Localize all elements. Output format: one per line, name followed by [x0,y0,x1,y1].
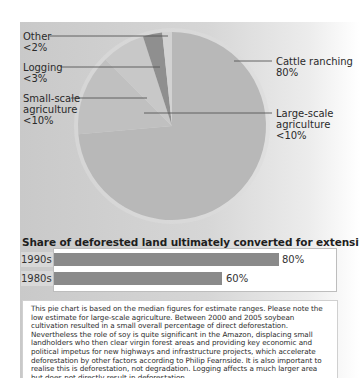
pie-label-cattle-value: 80% [276,67,353,78]
pie-label-small-scale-name1: Small-scale [23,93,80,104]
pie-label-logging-name: Logging [23,62,63,73]
bar-1980s [54,272,222,285]
pie-label-small-scale: Small-scale agriculture <10% [23,93,80,126]
pie-label-other-value: <2% [23,42,51,53]
pie-label-small-scale-value: <10% [23,115,80,126]
bar-value-1980s: 60% [226,272,248,285]
bar-label-1980s: 1980s [21,271,53,286]
pie-label-other-name: Other [23,31,51,42]
explanatory-note: This pie chart is based on the median fi… [22,300,338,378]
bar-1990s [54,253,279,266]
pie-label-large-scale: Large-scale agriculture <10% [276,108,334,141]
bar-chart-title: Share of deforested land ultimately conv… [22,236,359,248]
pie-label-cattle-name: Cattle ranching [276,56,353,67]
bar-label-1990s: 1990s [21,252,53,267]
pie-label-small-scale-name2: agriculture [23,104,80,115]
bar-value-1990s: 80% [282,253,304,266]
pie-label-logging: Logging <3% [23,62,63,84]
pie-label-cattle: Cattle ranching 80% [276,56,353,78]
pie-label-large-scale-name2: agriculture [276,119,334,130]
pie-label-large-scale-value: <10% [276,130,334,141]
pie-label-large-scale-name1: Large-scale [276,108,334,119]
pie-label-other: Other <2% [23,31,51,53]
pie-label-logging-value: <3% [23,73,63,84]
pie-chart: Other <2% Logging <3% Small-scale agricu… [0,0,359,240]
